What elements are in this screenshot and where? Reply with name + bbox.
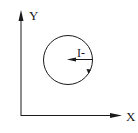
x-axis-arrow-icon: [110, 113, 122, 118]
x-axis-label: X: [126, 109, 136, 124]
y-axis: [19, 10, 24, 116]
vector-label: I-: [77, 46, 85, 60]
radius-vector-arrow-icon: [67, 58, 76, 62]
y-axis-label: Y: [29, 8, 39, 23]
y-axis-arrow-icon: [19, 10, 24, 21]
clockwise-direction-arrow-icon: [87, 69, 92, 74]
x-axis: [21, 113, 122, 118]
diagram-canvas: Y X I-: [0, 0, 138, 133]
